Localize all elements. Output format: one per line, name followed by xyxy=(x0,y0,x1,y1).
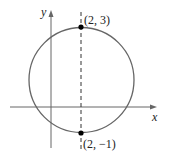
point-bottom xyxy=(78,130,83,135)
point-top-label: (2, 3) xyxy=(84,13,110,27)
diagram: y x (2, 3) (2, −1) xyxy=(0,0,169,159)
x-axis-label: x xyxy=(151,110,158,124)
y-axis-label: y xyxy=(40,5,47,19)
point-top xyxy=(78,24,83,29)
point-bottom-label: (2, −1) xyxy=(83,137,116,151)
y-axis xyxy=(49,10,54,148)
diagram-svg: y x (2, 3) (2, −1) xyxy=(0,0,169,159)
x-axis xyxy=(10,105,157,110)
